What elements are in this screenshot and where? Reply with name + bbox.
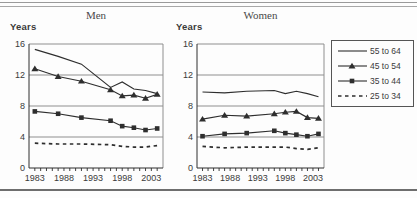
bottom-rule: [0, 189, 417, 191]
svg-text:1988: 1988: [54, 173, 74, 183]
chart-panel-men: 048121619831988199319982003: [0, 38, 175, 190]
legend-label: 25 to 34: [370, 91, 401, 101]
svg-text:2003: 2003: [141, 173, 161, 183]
legend-line-sample-35-to-44: [336, 75, 369, 87]
svg-text:4: 4: [20, 132, 25, 142]
legend-item-25-to-34: 25 to 34: [336, 89, 410, 103]
svg-text:1988: 1988: [220, 173, 240, 183]
legend-item-35-to-44: 35 to 44: [336, 74, 410, 88]
chart-title-women: Women: [197, 9, 324, 22]
svg-text:12: 12: [183, 70, 193, 80]
legend: 55 to 64 45 to 54 35 to 44 25 to 34: [331, 40, 414, 107]
legend-item-55-to-64: 55 to 64: [336, 44, 410, 58]
chart-panel-women: 048121619831988199319982003: [168, 38, 328, 190]
svg-text:1993: 1993: [83, 173, 103, 183]
svg-text:12: 12: [15, 70, 25, 80]
svg-text:4: 4: [188, 132, 193, 142]
svg-text:16: 16: [15, 39, 25, 49]
svg-text:16: 16: [183, 39, 193, 49]
legend-label: 45 to 54: [370, 61, 401, 71]
svg-text:1993: 1993: [248, 173, 268, 183]
legend-line-sample-45-to-54: [336, 60, 369, 72]
svg-text:1998: 1998: [275, 173, 295, 183]
legend-line-sample-25-to-34: [336, 90, 369, 102]
svg-text:1983: 1983: [25, 173, 45, 183]
svg-text:0: 0: [188, 163, 193, 173]
y-axis-label-women: Years: [176, 21, 202, 32]
svg-text:8: 8: [20, 101, 25, 111]
legend-item-45-to-54: 45 to 54: [336, 59, 410, 73]
y-axis-label-men: Years: [10, 21, 36, 32]
legend-label: 35 to 44: [370, 76, 401, 86]
svg-text:8: 8: [188, 101, 193, 111]
svg-text:2003: 2003: [303, 173, 323, 183]
svg-text:1983: 1983: [193, 173, 213, 183]
figure: Men Women Years Years 048121619831988199…: [0, 0, 417, 198]
svg-text:1998: 1998: [112, 173, 132, 183]
legend-line-sample-55-to-64: [336, 45, 369, 57]
legend-label: 55 to 64: [370, 46, 401, 56]
chart-title-men: Men: [29, 9, 163, 22]
top-rule: [0, 2, 417, 7]
svg-text:0: 0: [20, 163, 25, 173]
